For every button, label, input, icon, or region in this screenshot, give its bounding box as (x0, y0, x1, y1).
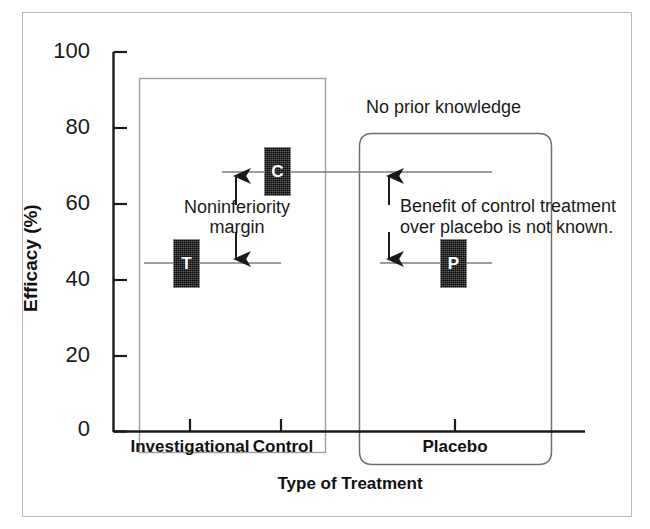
no-prior-knowledge-label: No prior knowledge (366, 98, 521, 117)
y-tick-label-80: 80 (30, 114, 90, 140)
marker-investigational: T (174, 240, 199, 287)
benefit-label-line2: over placebo is not known. (400, 218, 613, 237)
marker-placebo: P (441, 240, 466, 287)
x-axis-ticks (190, 419, 455, 432)
x-tick-label-control: Control (241, 437, 325, 457)
x-tick-label-placebo: Placebo (413, 437, 497, 457)
trial-group-box (140, 79, 326, 453)
y-axis-title: Efficacy (%) (20, 204, 42, 312)
noninferiority-margin-label-line1: Noninferiority (167, 198, 307, 217)
y-tick-label-100: 100 (30, 38, 90, 64)
chart-canvas (0, 0, 650, 529)
y-tick-label-0: 0 (30, 416, 90, 442)
noninferiority-margin-label-line2: margin (167, 218, 307, 237)
x-axis-title: Type of Treatment (265, 474, 435, 494)
y-axis-ticks (114, 52, 128, 432)
benefit-label-line1: Benefit of control treatment (400, 197, 616, 216)
marker-control: C (265, 148, 290, 195)
figure-page: 100 80 60 40 20 0 Efficacy (%) Investiga… (0, 0, 650, 529)
y-tick-label-20: 20 (30, 342, 90, 368)
